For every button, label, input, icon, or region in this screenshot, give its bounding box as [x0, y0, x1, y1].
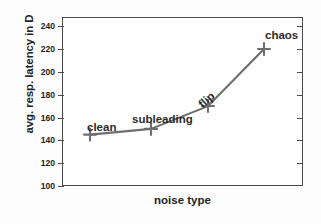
y-tick: 180	[58, 95, 64, 96]
chart-figure: avg. resp. latency in D 240 220 200 180 …	[0, 0, 321, 224]
y-tick-label: 220	[41, 44, 55, 54]
y-tick: 160	[58, 118, 64, 119]
y-tick: 140	[58, 140, 64, 141]
y-tick: 240	[58, 26, 64, 27]
point-label-subleading: subleading	[132, 113, 193, 125]
x-axis-label: noise type	[62, 194, 303, 206]
y-tick-right	[297, 49, 303, 50]
y-tick: 220	[58, 49, 64, 50]
y-tick-label: 140	[41, 135, 55, 145]
y-tick-right	[297, 118, 303, 119]
y-tick-right	[297, 26, 303, 27]
y-tick-label: 100	[41, 181, 55, 191]
y-tick-right	[297, 95, 303, 96]
y-tick: 120	[58, 163, 64, 164]
y-tick-label: 160	[41, 113, 55, 123]
y-tick-right	[297, 72, 303, 73]
y-tick: 100	[58, 186, 64, 187]
y-axis-label: avg. resp. latency in D	[23, 0, 35, 159]
y-tick-label: 180	[41, 90, 55, 100]
plot-area	[62, 17, 303, 186]
y-tick-right	[297, 140, 303, 141]
y-tick-right	[297, 163, 303, 164]
point-label-clean: clean	[87, 121, 116, 133]
y-tick-label: 200	[41, 67, 55, 77]
point-label-chaos: chaos	[265, 29, 298, 41]
y-tick-label: 120	[41, 158, 55, 168]
y-tick-label: 240	[41, 21, 55, 31]
y-tick: 200	[58, 72, 64, 73]
